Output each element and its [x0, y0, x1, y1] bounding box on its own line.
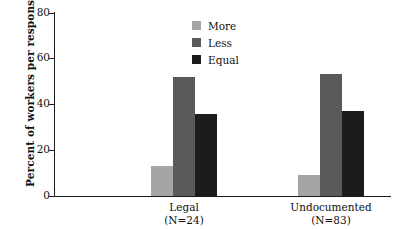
- y-axis-title: Percent of workers per response: [24, 0, 36, 190]
- x-axis-category-label: Legal(N=24): [104, 201, 264, 227]
- bar-group: [298, 13, 364, 196]
- x-axis-category-label: Undocumented(N=83): [251, 201, 401, 227]
- category-name: Undocumented: [251, 201, 401, 214]
- y-axis-line: [54, 12, 55, 197]
- y-axis-tick-label: 40: [37, 97, 50, 109]
- y-axis-tick-label: 0: [43, 189, 50, 201]
- bar: [151, 166, 173, 196]
- legend-item: More: [192, 18, 239, 33]
- y-axis-tick-label: 20: [37, 143, 50, 155]
- legend-label: Equal: [208, 54, 239, 66]
- category-sample-size: (N=24): [104, 214, 264, 227]
- legend-item: Equal: [192, 52, 239, 67]
- bar-chart: Percent of workers per response 02040608…: [0, 0, 401, 229]
- legend-swatch-icon: [192, 38, 201, 47]
- legend-item: Less: [192, 35, 239, 50]
- category-name: Legal: [104, 201, 264, 214]
- bar: [173, 77, 195, 196]
- bar: [298, 175, 320, 196]
- y-axis-tick-label: 60: [37, 51, 50, 63]
- bar: [320, 74, 342, 195]
- category-sample-size: (N=83): [251, 214, 401, 227]
- x-axis-line: [54, 196, 391, 197]
- legend-swatch-icon: [192, 21, 201, 30]
- chart-legend: MoreLessEqual: [192, 18, 239, 69]
- bar: [195, 114, 217, 195]
- y-axis-tick-label: 80: [37, 6, 50, 18]
- bar: [342, 111, 364, 196]
- legend-swatch-icon: [192, 55, 201, 64]
- legend-label: More: [208, 20, 236, 32]
- legend-label: Less: [208, 37, 232, 49]
